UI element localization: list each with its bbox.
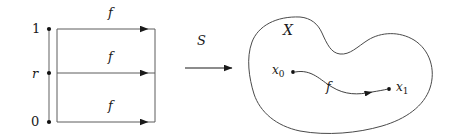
interval-endpoint-bottom-dot [47, 120, 51, 124]
point-x1-subscript: 1 [403, 86, 409, 96]
diagram-canvas [0, 0, 450, 140]
point-x1-label: x1 [396, 81, 409, 93]
unit-interval-graphic [47, 27, 51, 124]
path-f-curve-tail [372, 89, 388, 92]
square-bottom-arrow-label-f: f [108, 99, 113, 112]
square-top-arrow-label-f: f [108, 6, 113, 19]
square-middle-arrow-label-f: f [108, 50, 113, 63]
interval-label-0: 0 [31, 115, 39, 128]
interval-label-r: r [32, 67, 38, 80]
space-X-label: X [283, 23, 293, 37]
map-S-label: S [197, 34, 206, 47]
point-x1-base: x [396, 80, 403, 94]
interval-endpoint-top-dot [47, 27, 51, 31]
interval-label-1: 1 [32, 22, 40, 35]
point-x0-base: x [272, 63, 279, 77]
homotopy-diagram: 1 r 0 f f f S X x0 x1 f [0, 0, 450, 140]
path-f-curve [295, 71, 372, 93]
interval-point-r-dot [47, 71, 51, 75]
point-x0-dot [291, 70, 295, 74]
homotopy-square-graphic [57, 29, 155, 122]
path-f-label: f [326, 80, 331, 93]
point-x0-subscript: 0 [279, 69, 285, 79]
point-x0-label: x0 [272, 64, 285, 76]
